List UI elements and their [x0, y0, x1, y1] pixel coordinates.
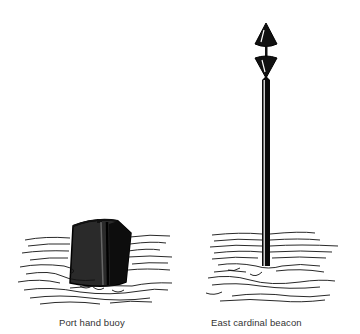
east-cardinal-beacon-caption: East cardinal beacon — [211, 317, 302, 328]
east-cardinal-beacon-icon — [206, 23, 338, 302]
illustration: Port hand buoy East cardinal beacon — [0, 0, 360, 334]
port-hand-buoy-caption: Port hand buoy — [59, 317, 125, 328]
buoy-drawing — [0, 0, 360, 334]
port-hand-buoy-icon — [18, 219, 172, 304]
